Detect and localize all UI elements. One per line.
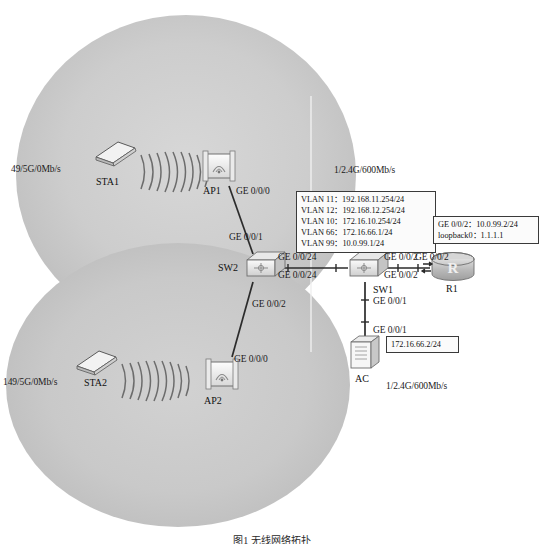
ac-port-label: GE 0/0/1 <box>373 325 407 336</box>
router-config-row: GE 0/0/2：10.0.99.2/24 <box>438 219 534 230</box>
switch-icon <box>350 252 388 276</box>
vlan-row: VLAN 12：192.168.12.254/24 <box>301 205 431 216</box>
sta1-signal-label: 49/5G/0Mb/s <box>11 164 61 175</box>
access-point-icon <box>203 151 235 181</box>
sw2-label: SW2 <box>218 262 238 273</box>
ac-config-row: 172.16.66.2/24 <box>391 339 454 350</box>
ap1-label: AP1 <box>203 185 221 196</box>
sw1-label: SW1 <box>373 284 393 295</box>
network-topology-canvas: R <box>0 0 544 544</box>
vlan-row: VLAN 11：192.168.11.254/24 <box>301 194 431 205</box>
sta2-label: STA2 <box>84 377 107 388</box>
sw1-down-port-label: GE 0/0/2 <box>384 270 418 281</box>
ac-rate-label: 1/2.4G/600Mb/s <box>386 381 447 392</box>
sw1-to-sw2-port-label: GE 0/0/24 <box>278 270 316 281</box>
sw1-to-ac-port-label: GE 0/0/1 <box>373 296 407 307</box>
ac-label: AC <box>355 373 369 384</box>
ap2-label: AP2 <box>204 395 222 406</box>
figure-caption: 图1 无线网络拓扑 <box>0 532 544 544</box>
sw1-to-r1-port-label: GE 0/0/2 <box>384 252 418 263</box>
router-config-box: GE 0/0/2：10.0.99.2/24 loopback0：1.1.1.1 <box>433 216 539 244</box>
router-config-row: loopback0：1.1.1.1 <box>438 230 534 241</box>
vlan-row: VLAN 10：172.16.10.254/24 <box>301 216 431 227</box>
sw2-to-sw1-port-label: GE 0/0/24 <box>278 252 316 263</box>
vlan-row: VLAN 66：172.16.66.1/24 <box>301 227 431 238</box>
ap1-port-label: GE 0/0/0 <box>236 186 270 197</box>
ap1-rate-label: 1/2.4G/600Mb/s <box>334 165 395 176</box>
wireless-controller-icon <box>351 336 379 368</box>
sta2-signal-label: 149/5G/0Mb/s <box>3 377 57 388</box>
vlan-row: VLAN 99：10.0.99.1/24 <box>301 238 431 249</box>
lower-wlan-coverage <box>6 243 350 527</box>
r1-port-label: GE 0/0/2 <box>415 252 449 263</box>
svg-text:R: R <box>448 260 459 276</box>
sw2-to-ap1-port-label: GE 0/0/1 <box>229 232 263 243</box>
ac-config-box: 172.16.66.2/24 <box>386 336 459 353</box>
r1-label: R1 <box>446 283 458 294</box>
sw2-to-ap2-port-label: GE 0/0/2 <box>252 299 286 310</box>
ap2-port-label: GE 0/0/0 <box>234 354 268 365</box>
sta1-label: STA1 <box>96 176 119 187</box>
vlan-config-box: VLAN 11：192.168.11.254/24 VLAN 12：192.16… <box>296 191 436 253</box>
